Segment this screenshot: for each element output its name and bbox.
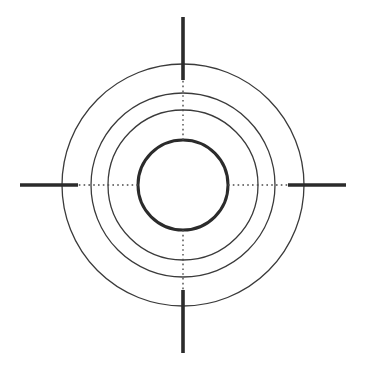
target-figure [0,0,367,370]
target-diagram-svg [0,0,367,370]
